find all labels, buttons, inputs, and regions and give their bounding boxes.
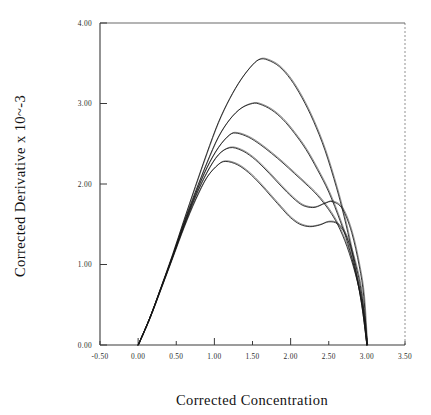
- data-curves-group: [138, 58, 367, 345]
- x-tick-label: 3.00: [360, 352, 374, 361]
- x-tick-label: 1.50: [245, 352, 259, 361]
- data-curve: [138, 161, 367, 345]
- x-tick-label: 0.00: [131, 352, 145, 361]
- x-tick-labels: -0.500.000.501.001.502.002.503.003.50: [92, 352, 413, 361]
- axes-group: [100, 23, 405, 345]
- chart-figure: -0.500.000.501.001.502.002.503.003.50 0.…: [0, 0, 431, 415]
- y-tick-label: 3.00: [78, 99, 92, 108]
- x-tick-label: 2.50: [322, 352, 336, 361]
- data-curve: [138, 133, 367, 345]
- x-tick-label: 0.50: [169, 352, 183, 361]
- y-tick-label: 0.00: [78, 341, 92, 350]
- y-tick-label: 1.00: [78, 260, 92, 269]
- x-tick-label: -0.50: [92, 352, 109, 361]
- x-axis-title: Corrected Concentration: [176, 392, 328, 408]
- x-tick-label: 2.00: [284, 352, 298, 361]
- x-tick-label: 3.50: [398, 352, 412, 361]
- ticks-group: [100, 23, 405, 345]
- data-curve-shadow: [139, 132, 368, 344]
- y-axis-title: Corrected Derivative x 10~-3: [12, 95, 28, 277]
- x-tick-label: 1.00: [207, 352, 221, 361]
- y-tick-label: 2.00: [78, 180, 92, 189]
- data-curve: [138, 148, 367, 345]
- y-tick-labels: 0.001.002.003.004.00: [78, 19, 92, 350]
- y-tick-label: 4.00: [78, 19, 92, 28]
- plot-svg: -0.500.000.501.001.502.002.503.003.50 0.…: [0, 0, 431, 415]
